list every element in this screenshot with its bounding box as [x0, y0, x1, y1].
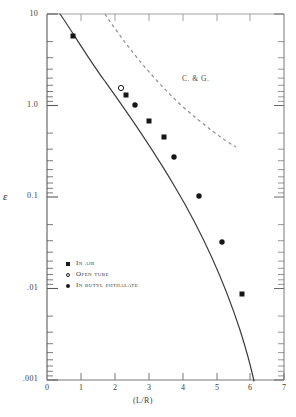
- series-open-tube-markers: [118, 85, 123, 90]
- legend-item-butyl-phthalate: In butyl phthalate: [62, 280, 138, 291]
- axes-frame: [47, 14, 284, 380]
- y-axis-ticks: [47, 14, 58, 380]
- open-circle-marker-icon: [62, 273, 74, 277]
- series-butyl-phthalate-markers: [132, 102, 224, 244]
- x-tick-label-7: 7: [277, 383, 291, 392]
- y-tick-label-0.01: .01: [8, 283, 38, 292]
- chart-legend: In air Open tube In butyl phthalate: [62, 258, 138, 291]
- x-tick-label-4: 4: [176, 383, 190, 392]
- y-tick-label-0.001: .001: [8, 374, 38, 383]
- cg-curve-annotation: C. & G.: [182, 74, 209, 83]
- experimental-curve: [60, 14, 254, 381]
- x-tick-label-3: 3: [142, 383, 156, 392]
- filled-square-marker-icon: [62, 262, 74, 266]
- y-tick-label-1: 1.0: [8, 100, 38, 109]
- x-tick-label-6: 6: [243, 383, 257, 392]
- chart-plot-area: [0, 0, 296, 417]
- legend-label-in-air: In air: [74, 258, 95, 269]
- legend-label-butyl-phthalate: In butyl phthalate: [74, 280, 138, 291]
- x-tick-label-5: 5: [210, 383, 224, 392]
- filled-circle-marker-icon: [62, 284, 74, 288]
- right-axis-ticks: [274, 14, 284, 380]
- legend-label-open-tube: Open tube: [74, 269, 109, 280]
- y-axis-label: ε: [3, 190, 7, 202]
- y-tick-label-10: 10: [8, 9, 38, 18]
- y-tick-label-0.1: 0.1: [8, 191, 38, 200]
- x-tick-label-0: 0: [40, 383, 54, 392]
- legend-item-in-air: In air: [62, 258, 138, 269]
- x-axis-label: (L/R): [133, 396, 153, 405]
- x-tick-label-2: 2: [108, 383, 122, 392]
- figure-container: 10 1.0 0.1 .01 .001 ε 0 1 2 3 4 5 6 7 (L…: [0, 0, 296, 417]
- legend-item-open-tube: Open tube: [62, 269, 138, 280]
- x-tick-label-1: 1: [74, 383, 88, 392]
- cg-dashed-curve: [105, 14, 236, 147]
